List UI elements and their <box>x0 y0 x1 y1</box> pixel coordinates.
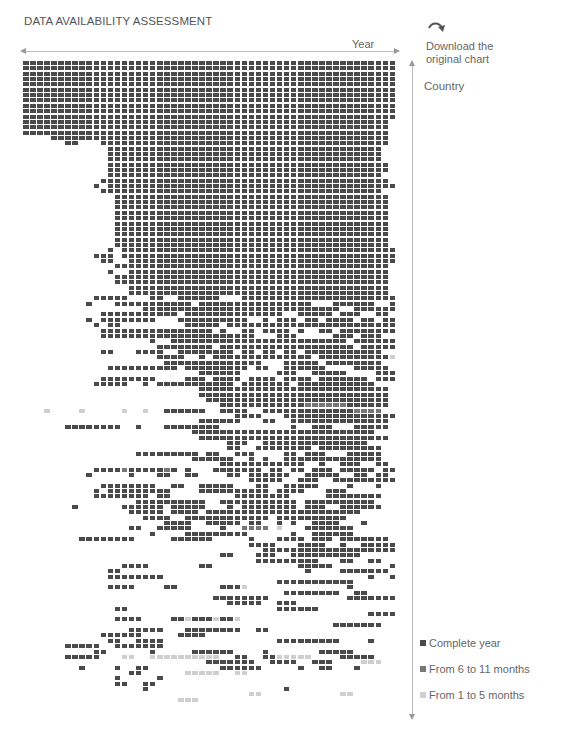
data-cell <box>178 211 184 215</box>
data-cell <box>298 639 304 643</box>
data-cell <box>213 339 219 343</box>
data-cell <box>319 200 325 204</box>
data-cell <box>220 115 226 119</box>
data-cell <box>368 66 374 70</box>
data-cell <box>270 136 276 140</box>
data-cell <box>312 115 318 119</box>
data-cell <box>249 345 255 349</box>
data-cell <box>235 205 241 209</box>
data-cell <box>305 548 311 552</box>
data-cell <box>136 243 142 247</box>
data-cell <box>326 184 332 188</box>
data-cell <box>122 409 128 413</box>
data-cell <box>143 115 149 119</box>
data-cell <box>340 157 346 161</box>
data-cell <box>376 184 382 188</box>
data-cell <box>249 361 255 365</box>
data-cell <box>291 350 297 354</box>
data-cell <box>164 248 170 252</box>
data-cell <box>368 537 374 541</box>
legend-swatch-complete <box>420 640 426 646</box>
data-cell <box>249 666 255 670</box>
data-cell <box>213 120 219 124</box>
data-cell <box>129 644 135 648</box>
data-cell <box>242 345 248 349</box>
data-cell <box>347 264 353 268</box>
data-cell <box>178 302 184 306</box>
data-cell <box>312 312 318 316</box>
data-cell <box>361 254 367 258</box>
data-cell <box>164 200 170 204</box>
data-cell <box>340 500 346 504</box>
data-cell <box>256 628 262 632</box>
data-cell <box>298 516 304 520</box>
data-cell <box>157 222 163 226</box>
data-cell <box>319 82 325 86</box>
data-cell <box>376 387 382 391</box>
data-cell <box>199 216 205 220</box>
data-cell <box>192 329 198 333</box>
data-cell <box>383 259 389 263</box>
data-cell <box>235 131 241 135</box>
data-cell <box>361 125 367 129</box>
data-cell <box>192 243 198 247</box>
download-chart-link[interactable]: Download the original chart <box>426 22 566 66</box>
data-cell <box>129 104 135 108</box>
data-cell <box>298 248 304 252</box>
data-cell <box>256 692 262 696</box>
x-axis-label: Year <box>352 38 374 50</box>
data-cell <box>291 355 297 359</box>
data-cell <box>235 109 241 113</box>
data-cell <box>368 387 374 391</box>
data-cell <box>291 141 297 145</box>
data-cell <box>157 505 163 509</box>
data-cell <box>277 505 283 509</box>
data-cell <box>277 655 283 659</box>
data-cell <box>383 596 389 600</box>
data-cell <box>136 131 142 135</box>
data-cell <box>354 248 360 252</box>
data-cell <box>376 168 382 172</box>
data-cell <box>249 243 255 247</box>
data-cell <box>376 211 382 215</box>
data-cell <box>51 72 57 76</box>
data-cell <box>164 72 170 76</box>
data-cell <box>115 243 121 247</box>
data-cell <box>129 291 135 295</box>
data-cell <box>157 329 163 333</box>
data-cell <box>30 66 36 70</box>
data-cell <box>129 494 135 498</box>
data-cell <box>249 478 255 482</box>
data-cell <box>51 66 57 70</box>
data-cell <box>115 216 121 220</box>
data-cell <box>298 286 304 290</box>
data-cell <box>235 104 241 108</box>
data-cell <box>277 639 283 643</box>
data-cell <box>256 526 262 530</box>
data-cell <box>199 168 205 172</box>
data-cell <box>312 318 318 322</box>
data-cell <box>44 409 50 413</box>
data-cell <box>129 280 135 284</box>
data-cell <box>157 500 163 504</box>
data-cell <box>340 302 346 306</box>
data-cell <box>94 109 100 113</box>
data-cell <box>213 275 219 279</box>
data-cell <box>256 77 262 81</box>
data-cell <box>383 398 389 402</box>
data-cell <box>44 104 50 108</box>
data-cell <box>115 334 121 338</box>
data-cell <box>263 500 269 504</box>
data-cell <box>312 227 318 231</box>
data-cell <box>115 489 121 493</box>
data-cell <box>312 264 318 268</box>
data-cell <box>171 302 177 306</box>
data-cell <box>270 254 276 258</box>
data-cell <box>347 147 353 151</box>
data-cell <box>206 307 212 311</box>
data-cell <box>390 548 396 552</box>
data-cell <box>298 329 304 333</box>
data-cell <box>270 72 276 76</box>
data-cell <box>227 312 233 316</box>
data-cell <box>263 222 269 226</box>
